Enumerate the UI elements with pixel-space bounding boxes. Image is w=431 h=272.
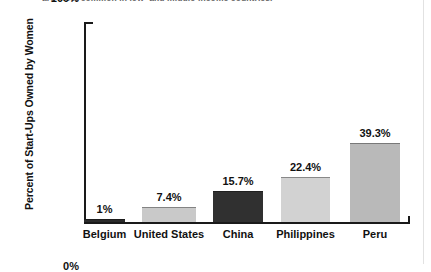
bar-group: 15.7%: [213, 22, 263, 222]
bar-series: 1%7.4%15.7%22.4%39.3%: [84, 22, 410, 222]
page-edge-line: [423, 0, 424, 264]
bar: [142, 207, 196, 222]
x-axis-line: [84, 222, 410, 224]
bar: [281, 177, 330, 222]
bar-value-label: 22.4%: [290, 161, 321, 173]
figure-caption-partial: are most common in low- and middle-incom…: [42, 0, 382, 3]
bar-group: 39.3%: [350, 22, 400, 222]
bar-value-label: 15.7%: [222, 175, 253, 187]
bar-group: 1%: [84, 22, 125, 222]
bar-value-label: 7.4%: [156, 191, 181, 203]
bar-group: 7.4%: [142, 22, 196, 222]
bar: [350, 143, 400, 222]
x-axis-category-label: China: [201, 228, 275, 241]
plot-area: 1%7.4%15.7%22.4%39.3%: [84, 22, 410, 222]
y-axis-title: Percent of Start-Ups Owned by Women: [23, 0, 35, 229]
y-tick-label-100: 100%: [51, 0, 79, 4]
x-axis-category-label: Philippines: [269, 228, 342, 241]
bar-group: 22.4%: [281, 22, 330, 222]
bar: [84, 219, 125, 222]
bar-value-label: 1%: [97, 203, 113, 215]
x-axis-category-label: Peru: [338, 228, 412, 241]
bar: [213, 191, 263, 222]
x-axis-category-label: Belgium: [72, 228, 137, 241]
bar-value-label: 39.3%: [359, 127, 390, 139]
y-tick-label-0: 0%: [63, 260, 79, 272]
x-axis-category-labels: BelgiumUnited StatesChinaPhilippinesPeru: [84, 228, 410, 264]
x-axis-category-label: United States: [130, 228, 208, 241]
